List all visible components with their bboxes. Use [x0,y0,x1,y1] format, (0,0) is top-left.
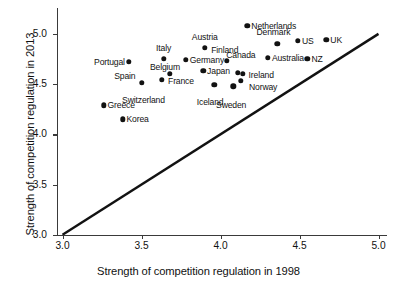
x-tick-label: 4.0 [201,240,241,251]
data-point-label: US [302,35,314,45]
y-tick-label: 4.0 [7,128,47,139]
data-point-label: Belgium [150,62,180,72]
y-tick-label: 3.5 [7,179,47,190]
y-tick-mark [53,235,57,236]
y-tick-label: 4.5 [7,78,47,89]
y-tick-mark [53,134,57,135]
data-point-label: Ireland [249,70,274,80]
x-tick-mark [221,235,222,239]
data-point-label: Spain [114,71,135,81]
data-point-label: Denmark [256,27,290,37]
data-point-label: Greece [108,100,135,110]
x-tick-mark [142,235,143,239]
data-point-label: Australia [272,53,304,63]
data-point-label: Portugal [94,57,125,67]
x-tick-label: 3.5 [122,240,162,251]
data-point-label: Sweden [216,100,246,110]
x-tick-mark [300,235,301,239]
data-point-label: NZ [311,54,322,64]
data-point-label: Norway [249,82,277,92]
x-tick-label: 3.0 [43,240,83,251]
x-tick-mark [63,235,64,239]
x-tick-mark [379,235,380,239]
y-tick-mark [53,84,57,85]
data-point-label: Japan [207,66,230,76]
data-point-label: Korea [127,114,149,124]
data-point-label: France [168,76,194,86]
data-point-label: Canada [226,50,255,60]
y-tick-mark [53,34,57,35]
y-tick-label: 3.0 [7,229,47,240]
data-point-label: UK [330,34,342,44]
plot-area: 3.03.54.04.55.0 3.03.54.04.55.0 Netherla… [57,8,387,236]
data-point-label: Austria [192,32,218,42]
x-axis-title: Strength of competition regulation in 19… [0,265,397,277]
y-tick-mark [53,185,57,186]
y-tick-label: 5.0 [7,28,47,39]
scatter-plot-figure: Strength of competition regulation in 20… [0,0,397,291]
data-point-label: Germany [190,55,224,65]
x-tick-label: 4.5 [280,240,320,251]
data-point-label: Italy [156,43,171,53]
x-tick-label: 5.0 [359,240,397,251]
